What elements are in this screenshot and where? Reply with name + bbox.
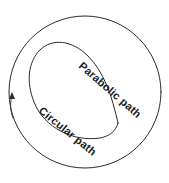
diagram-root: Parabolic path Circular path — [0, 0, 169, 183]
circular-path-label: Circular path — [37, 104, 99, 158]
parabolic-path-label: Parabolic path — [77, 59, 144, 120]
path-diagram-svg: Parabolic path Circular path — [0, 0, 169, 183]
direction-arrow-head — [9, 92, 15, 99]
